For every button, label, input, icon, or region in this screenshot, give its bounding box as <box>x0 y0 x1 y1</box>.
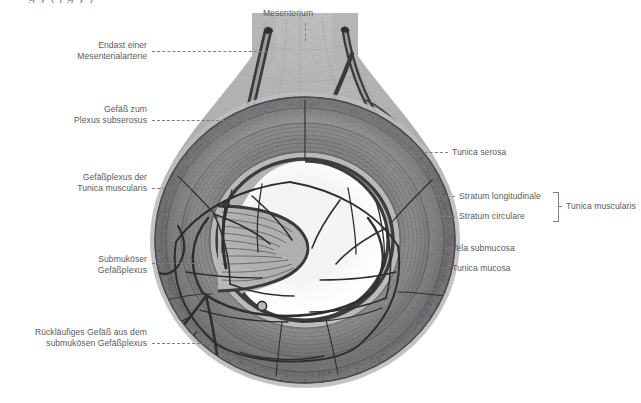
leader-gefaess-plexus-subserosus <box>152 120 254 121</box>
label-submukoeser-line1: Submuköser <box>0 254 147 265</box>
label-tela-submucosa: Tela submucosa <box>452 243 515 254</box>
label-ruecklaeufiges-line2: submukösen Gefäßplexus <box>0 338 147 349</box>
leader-tunica-serosa <box>404 152 448 153</box>
leader-tela-submucosa <box>421 248 448 249</box>
label-submukoeser-gefaessplexus: Submuköser Gefäßplexus <box>0 254 147 275</box>
label-mesenterium-text: Mesenterium <box>263 8 313 18</box>
leader-gefaessplexus-tunica-muscularis <box>152 188 226 189</box>
label-tunica-muscularis-group-text: Tunica muscularis <box>566 201 636 211</box>
leader-tunica-mucosa <box>421 268 448 269</box>
label-endast-line1: Endast einer <box>0 40 147 51</box>
label-subserosus-line2: Plexus subserosus <box>0 115 147 126</box>
label-ruecklaeufiges-line1: Rückläufiges Gefäß aus dem <box>0 327 147 338</box>
label-gefaessplexus-line2: Tunica muscularis <box>0 183 147 194</box>
label-stratum-circulare: Stratum circulare <box>459 211 525 222</box>
leader-mesenterium <box>305 23 306 41</box>
label-stratum-longitudinale-text: Stratum longitudinale <box>459 191 541 201</box>
label-ruecklaeufiges-gefaess: Rückläufiges Gefäß aus dem submukösen Ge… <box>0 327 147 348</box>
label-tela-submucosa-text: Tela submucosa <box>452 243 515 253</box>
bracket-tunica-muscularis <box>553 192 559 222</box>
label-stratum-longitudinale: Stratum longitudinale <box>459 191 541 202</box>
bracket-tick-tunica-muscularis <box>558 206 562 207</box>
label-tunica-muscularis-group: Tunica muscularis <box>566 201 636 212</box>
leader-submukoeser-gefaessplexus <box>152 263 214 264</box>
figure-canvas: g y ( j g y ) <box>0 0 641 403</box>
label-subserosus-line1: Gefäß zum <box>0 104 147 115</box>
label-tunica-serosa: Tunica serosa <box>452 147 506 158</box>
label-endast-mesenterialarterie: Endast einer Mesenterialarterie <box>0 40 147 61</box>
label-gefaess-plexus-subserosus: Gefäß zum Plexus subserosus <box>0 104 147 125</box>
label-gefaessplexus-line1: Gefäßplexus der <box>0 172 147 183</box>
leader-stratum-circulare <box>420 216 455 217</box>
label-tunica-serosa-text: Tunica serosa <box>452 147 506 157</box>
leader-stratum-longitudinale <box>420 196 455 197</box>
label-tunica-mucosa-text: Tunica mucosa <box>452 263 511 273</box>
label-tunica-mucosa: Tunica mucosa <box>452 263 511 274</box>
label-submukoeser-line2: Gefäßplexus <box>0 265 147 276</box>
label-mesenterium: Mesenterium <box>228 8 348 19</box>
label-endast-line2: Mesenterialarterie <box>0 51 147 62</box>
label-stratum-circulare-text: Stratum circulare <box>459 211 525 221</box>
label-gefaessplexus-tunica-muscularis: Gefäßplexus der Tunica muscularis <box>0 172 147 193</box>
leader-ruecklaeufiges-gefaess <box>152 343 210 344</box>
leader-endast-mesenterialarterie <box>152 51 267 52</box>
